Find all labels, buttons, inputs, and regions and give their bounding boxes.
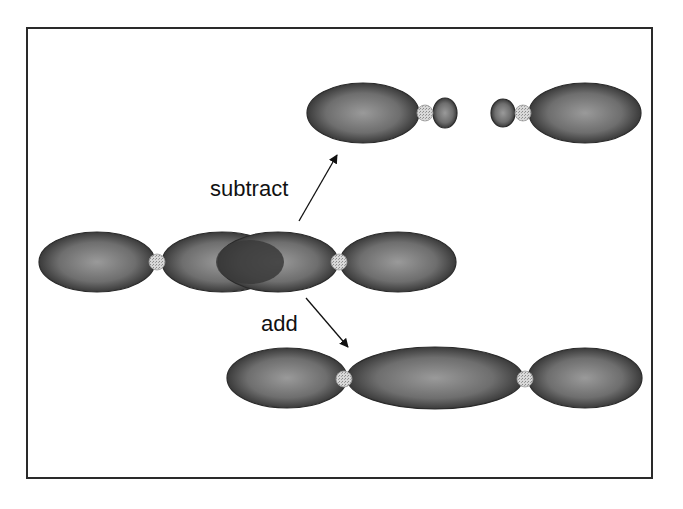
chromosome-original <box>39 232 456 292</box>
chromosome-added <box>227 347 642 409</box>
centromere-icon <box>336 371 352 387</box>
chromosome-arm <box>529 83 641 143</box>
chromosome-arm <box>491 99 515 127</box>
centromere-icon <box>417 105 433 121</box>
subtract-arrow-icon <box>299 155 337 221</box>
chromosome-arm <box>340 232 456 292</box>
chromosome-arm <box>307 83 419 143</box>
centromere-icon <box>515 105 531 121</box>
chromosome-subtract-right <box>491 83 641 143</box>
centromere-icon <box>149 254 165 270</box>
centromere-icon <box>331 254 347 270</box>
chromosome-arm <box>227 348 347 408</box>
chromosome-arm <box>433 98 457 128</box>
add-label: add <box>261 313 298 335</box>
chromosome-arm <box>347 347 523 409</box>
centromere-icon <box>517 371 533 387</box>
chromosome-arm <box>528 348 642 408</box>
subtract-label: subtract <box>210 178 288 200</box>
chromosome-diagram <box>0 0 683 509</box>
chromosome-arm <box>39 232 155 292</box>
chromosome-subtract-left <box>307 83 457 143</box>
add-arrow-icon <box>306 298 348 347</box>
overlap-region <box>216 240 284 284</box>
